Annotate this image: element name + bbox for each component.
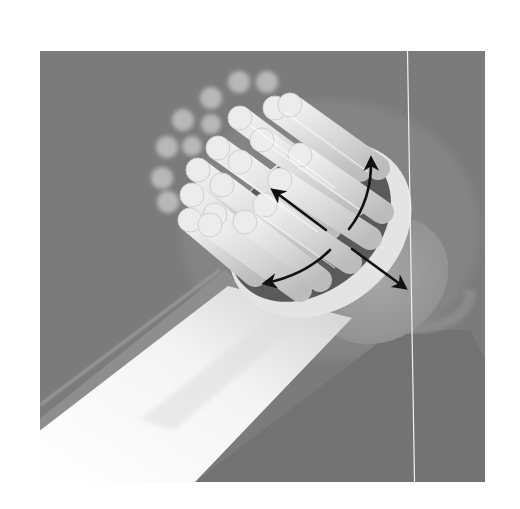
toothbrush-illustration xyxy=(0,0,520,509)
toothbrush-svg xyxy=(0,0,520,509)
